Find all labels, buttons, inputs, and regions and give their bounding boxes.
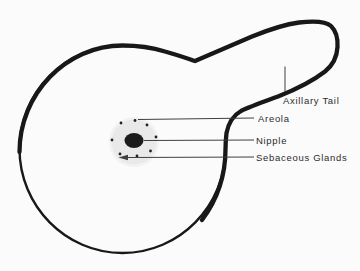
breast-anatomy-diagram: Axillary Tail Areola Nipple Sebaceous Gl… xyxy=(0,0,360,271)
nipple-shape xyxy=(125,133,144,148)
label-axillary-tail: Axillary Tail xyxy=(283,96,339,106)
label-areola: Areola xyxy=(258,114,290,124)
label-nipple: Nipple xyxy=(256,136,287,146)
nipple-leader-line xyxy=(144,140,254,141)
areola-leader-line xyxy=(138,118,254,120)
label-sebaceous-glands: Sebaceous Glands xyxy=(256,153,347,163)
sebaceous-leader-line xyxy=(126,157,254,158)
diagram-canvas xyxy=(0,0,360,271)
